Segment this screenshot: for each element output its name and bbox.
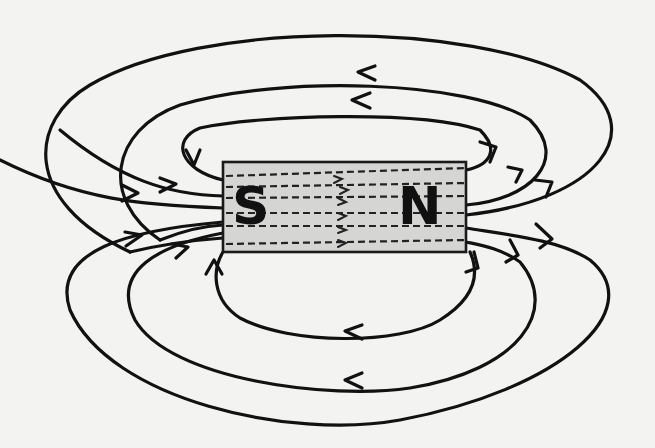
- field-line-left-mid-2: [60, 130, 223, 196]
- bar-magnet: S N: [223, 162, 466, 252]
- field-line-bottom-inner: [216, 252, 475, 339]
- arrow-top-inner-icon: [352, 93, 370, 108]
- arrow-top-middle-icon: [358, 66, 375, 80]
- arrow-bottom-middle-left-icon: [345, 373, 362, 388]
- north-pole-label: N: [398, 176, 442, 236]
- bar-magnet-field-diagram: S N: [0, 0, 655, 448]
- south-pole-label: S: [232, 176, 269, 236]
- arrow-right-top-2-icon: [508, 167, 522, 182]
